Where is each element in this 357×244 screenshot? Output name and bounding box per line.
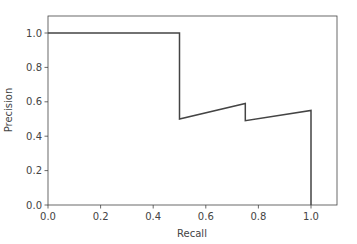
x-tick-label: 0.6: [198, 211, 214, 222]
y-axis-label: Precision: [3, 88, 14, 133]
y-tick-label: 0.0: [26, 200, 42, 211]
x-tick-label: 0.0: [40, 211, 56, 222]
y-tick-label: 1.0: [26, 28, 42, 39]
x-axis-ticks: 0.00.20.40.60.81.0: [40, 205, 319, 222]
x-tick-label: 0.4: [145, 211, 161, 222]
axes-frame: [48, 16, 337, 205]
y-tick-label: 0.8: [26, 62, 42, 73]
x-tick-label: 0.8: [250, 211, 266, 222]
x-axis-label: Recall: [177, 228, 207, 239]
series-line-0: [48, 33, 311, 205]
x-tick-label: 0.2: [93, 211, 109, 222]
y-tick-label: 0.4: [26, 131, 42, 142]
plot-line: [48, 33, 311, 205]
chart-canvas: 0.00.20.40.60.81.0 0.00.20.40.60.81.0 Re…: [0, 0, 357, 244]
y-axis-ticks: 0.00.20.40.60.81.0: [26, 28, 48, 211]
precision-recall-chart: 0.00.20.40.60.81.0 0.00.20.40.60.81.0 Re…: [0, 0, 357, 244]
y-tick-label: 0.2: [26, 165, 42, 176]
y-tick-label: 0.6: [26, 96, 42, 107]
x-tick-label: 1.0: [303, 211, 319, 222]
